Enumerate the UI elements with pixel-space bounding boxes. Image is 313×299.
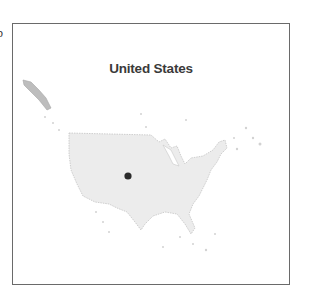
location-marker-icon[interactable] (124, 172, 131, 179)
map-frame: United States (12, 23, 290, 285)
alaska-shape (23, 80, 51, 110)
us-map[interactable] (13, 24, 291, 286)
cropped-text-fragment: b (0, 26, 3, 41)
contiguous-us-shape (69, 133, 227, 234)
